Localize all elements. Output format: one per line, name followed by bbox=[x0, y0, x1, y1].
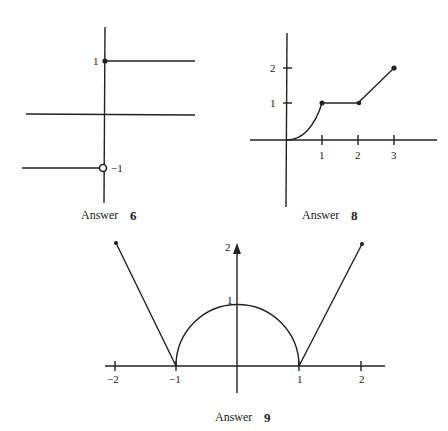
point-marker bbox=[391, 65, 396, 70]
y-label-neg1: −1 bbox=[111, 162, 123, 174]
caption-word: Answer bbox=[81, 208, 118, 222]
point-marker bbox=[357, 101, 362, 106]
figure-canvas: 1 −1 Answer 6 1 2 3 1 2 Answer 8 −2 −1 1… bbox=[0, 0, 448, 431]
x-label-1: 1 bbox=[297, 373, 303, 385]
y-label-1: 1 bbox=[93, 55, 99, 67]
answer-9-graph bbox=[105, 241, 385, 393]
rising-segment bbox=[358, 68, 394, 103]
answer-8-graph bbox=[250, 33, 437, 207]
x-label-2: 2 bbox=[359, 373, 365, 385]
caption-word: Answer bbox=[215, 410, 252, 424]
caption-number: 6 bbox=[130, 208, 137, 223]
x-label-1: 1 bbox=[319, 149, 325, 161]
right-line-segment bbox=[299, 244, 362, 366]
endpoint-marker bbox=[360, 242, 364, 246]
y-label-2: 2 bbox=[270, 62, 276, 74]
y-axis bbox=[286, 33, 287, 207]
answer-6-graph bbox=[22, 27, 195, 203]
x-label-3: 3 bbox=[391, 149, 397, 161]
caption-number: 8 bbox=[351, 208, 358, 223]
open-circle-marker bbox=[100, 165, 107, 172]
x-label-neg2: −2 bbox=[107, 373, 119, 385]
arrow-up-icon bbox=[233, 243, 241, 254]
endpoint-marker bbox=[114, 241, 118, 245]
caption-number: 9 bbox=[264, 410, 271, 425]
curve-segment bbox=[287, 103, 322, 140]
filled-dot-marker bbox=[102, 58, 107, 63]
x-axis bbox=[26, 114, 195, 115]
caption-word: Answer bbox=[302, 208, 339, 222]
y-label-1: 1 bbox=[227, 294, 233, 306]
x-label-2: 2 bbox=[355, 149, 361, 161]
point-marker bbox=[320, 101, 325, 106]
y-label-2: 2 bbox=[225, 241, 231, 253]
y-label-1: 1 bbox=[270, 97, 276, 109]
left-line-segment bbox=[116, 243, 176, 366]
x-label-neg1: −1 bbox=[169, 373, 181, 385]
